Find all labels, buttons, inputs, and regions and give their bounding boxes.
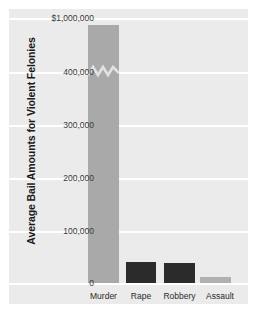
y-tick-label-200000: 200,000 [28, 173, 94, 183]
plot-area: Murder Rape Robbery Assault [9, 9, 248, 304]
x-tick-label-robbery: Robbery [155, 291, 204, 301]
y-tick-label-1000000: $1,000,000 [28, 13, 94, 23]
x-tick-label-assault: Assault [198, 291, 242, 301]
bar-robbery [164, 263, 195, 283]
x-tick-label-murder: Murder [81, 291, 126, 301]
bar-chart-figure: Murder Rape Robbery Assault $1,000,000 4… [0, 0, 260, 331]
y-tick-label-100000: 100,000 [28, 226, 94, 236]
bar-assault [200, 277, 231, 283]
bar-murder [88, 25, 119, 283]
bar-rape [126, 262, 156, 283]
y-axis-title: Average Bail Amounts for Violent Felonie… [25, 36, 37, 246]
y-tick-label-0: 0 [28, 278, 94, 288]
y-tick-label-400000: 400,000 [28, 67, 94, 77]
y-tick-label-300000: 300,000 [28, 120, 94, 130]
